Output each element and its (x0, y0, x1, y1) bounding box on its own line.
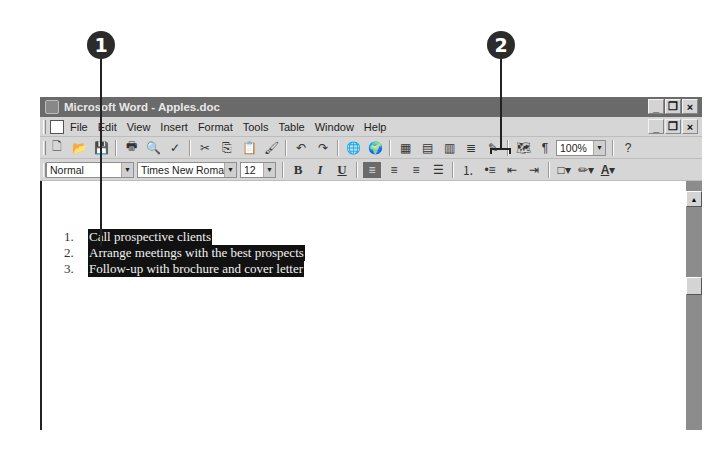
format-painter-icon[interactable]: 🖌 (262, 140, 280, 156)
hyperlink-icon[interactable]: 🌐 (344, 140, 362, 156)
increase-indent-icon[interactable]: ⇥ (525, 162, 543, 178)
callout-2: 2 (487, 31, 515, 59)
selected-list-text[interactable]: Follow-up with brochure and cover letter (88, 261, 304, 277)
word-window: Microsoft Word - Apples.doc _ ❐ × File E… (40, 97, 702, 430)
print-preview-icon[interactable]: 🔍 (144, 140, 162, 156)
redo-icon[interactable]: ↷ (314, 140, 332, 156)
menu-file[interactable]: File (70, 121, 88, 133)
menu-table[interactable]: Table (278, 121, 304, 133)
list-item[interactable]: 3. Follow-up with brochure and cover let… (64, 261, 305, 277)
callout-2-leader (500, 59, 502, 148)
font-value: Times New Roman (141, 164, 230, 176)
columns-icon[interactable]: ≣ (462, 140, 480, 156)
document-area[interactable]: 1. Call prospective clients 2. Arrange m… (40, 181, 702, 430)
list-number: 3. (64, 261, 88, 277)
underline-button[interactable]: U (333, 162, 351, 178)
menu-insert[interactable]: Insert (160, 121, 188, 133)
callout-2-bracket (490, 148, 511, 150)
list-number: 2. (64, 245, 88, 261)
italic-button[interactable]: I (311, 162, 329, 178)
doc-restore-button[interactable]: ❐ (665, 119, 681, 134)
callout-2-bracket-left (490, 148, 492, 154)
zoom-value: 100% (560, 142, 587, 154)
doc-minimize-button[interactable]: _ (648, 119, 664, 134)
menubar-grip[interactable] (43, 120, 46, 134)
standard-toolbar: 🗋 📂 💾 🖶 🔍 ✓ ✂ ⎘ 📋 🖌 ↶ ↷ 🌐 🌍 ▦ ▤ ▥ ≣ ✎ 🗺 … (40, 137, 702, 159)
selected-list-text[interactable]: Call prospective clients (88, 229, 212, 245)
open-icon[interactable]: 📂 (70, 140, 88, 156)
insert-table-icon[interactable]: ▤ (418, 140, 436, 156)
new-icon[interactable]: 🗋 (48, 140, 66, 156)
zoom-select[interactable]: 100% ▼ (556, 140, 606, 156)
scroll-thumb[interactable] (686, 277, 702, 295)
align-center-icon[interactable]: ≡ (385, 162, 403, 178)
callout-2-bracket-right (509, 148, 511, 154)
font-color-icon[interactable]: A▾ (599, 162, 617, 178)
document-icon[interactable] (50, 120, 64, 134)
menu-bar: File Edit View Insert Format Tools Table… (40, 117, 702, 137)
selected-list-text[interactable]: Arrange meetings with the best prospects (88, 245, 305, 261)
undo-icon[interactable]: ↶ (292, 140, 310, 156)
toolbar-grip[interactable] (43, 141, 46, 155)
close-button[interactable]: × (682, 99, 698, 114)
style-select[interactable]: Normal ▼ (46, 162, 134, 178)
menu-view[interactable]: View (127, 121, 151, 133)
minimize-button[interactable]: _ (648, 99, 664, 114)
paste-icon[interactable]: 📋 (240, 140, 258, 156)
numbering-icon[interactable]: ⒈ (459, 162, 477, 178)
callout-1-leader (100, 59, 102, 246)
web-toolbar-icon[interactable]: 🌍 (366, 140, 384, 156)
font-select[interactable]: Times New Roman ▼ (137, 162, 237, 178)
copy-icon[interactable]: ⎘ (218, 140, 236, 156)
bullets-icon[interactable]: •≡ (481, 162, 499, 178)
cut-icon[interactable]: ✂ (196, 140, 214, 156)
bold-button[interactable]: B (289, 162, 307, 178)
callout-1: 1 (87, 31, 115, 59)
spelling-icon[interactable]: ✓ (166, 140, 184, 156)
justify-icon[interactable]: ☰ (429, 162, 447, 178)
highlight-icon[interactable]: ✏▾ (577, 162, 595, 178)
restore-button[interactable]: ❐ (665, 99, 681, 114)
window-title: Microsoft Word - Apples.doc (64, 101, 220, 113)
chevron-down-icon[interactable]: ▼ (121, 163, 133, 177)
document-map-icon[interactable]: 🗺 (514, 140, 532, 156)
menu-format[interactable]: Format (198, 121, 233, 133)
style-value: Normal (50, 164, 84, 176)
chevron-down-icon[interactable]: ▼ (263, 163, 275, 177)
vertical-scrollbar[interactable]: ▲ (686, 181, 702, 430)
scroll-up-arrow-icon[interactable]: ▲ (686, 191, 702, 207)
borders-icon[interactable]: □▾ (555, 162, 573, 178)
list-item[interactable]: 2. Arrange meetings with the best prospe… (64, 245, 305, 261)
print-icon[interactable]: 🖶 (122, 140, 140, 156)
font-size-select[interactable]: 12 ▼ (240, 162, 276, 178)
formatting-toolbar: Normal ▼ Times New Roman ▼ 12 ▼ B I U ≡ … (40, 159, 702, 181)
decrease-indent-icon[interactable]: ⇤ (503, 162, 521, 178)
font-size-value: 12 (244, 164, 256, 176)
insert-excel-icon[interactable]: ▥ (440, 140, 458, 156)
menu-window[interactable]: Window (315, 121, 354, 133)
title-bar: Microsoft Word - Apples.doc _ ❐ × (40, 97, 702, 117)
tables-borders-icon[interactable]: ▦ (396, 140, 414, 156)
chevron-down-icon[interactable]: ▼ (593, 141, 605, 155)
help-icon[interactable]: ? (619, 140, 637, 156)
chevron-down-icon[interactable]: ▼ (224, 163, 236, 177)
doc-close-button[interactable]: × (682, 119, 698, 134)
menu-help[interactable]: Help (364, 121, 387, 133)
word-app-icon[interactable] (45, 100, 59, 114)
menu-tools[interactable]: Tools (243, 121, 269, 133)
align-right-icon[interactable]: ≡ (407, 162, 425, 178)
list-number: 1. (64, 229, 88, 245)
show-hide-icon[interactable]: ¶ (536, 140, 554, 156)
align-left-icon[interactable]: ≡ (363, 162, 381, 178)
